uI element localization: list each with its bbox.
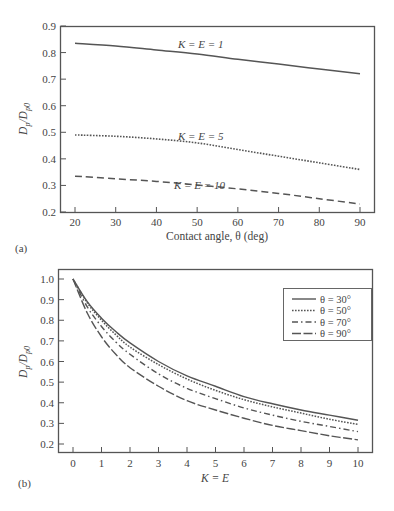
x-tick-label: 9	[327, 457, 333, 469]
y-tick-label: 0.3	[42, 179, 56, 191]
legend-label: θ = 50°	[320, 305, 351, 316]
y-tick-label: 0.4	[42, 153, 56, 165]
x-tick-label: 20	[70, 216, 82, 228]
x-tick-label: 2	[127, 457, 133, 469]
series-annotation: K = E = 10	[173, 179, 225, 191]
y-tick-label: 0.2	[42, 206, 56, 218]
y-tick-label: 0.8	[42, 47, 56, 59]
y-tick-label: 0.2	[40, 438, 54, 450]
x-tick-label: 90	[355, 216, 367, 228]
x-tick-label: 10	[353, 457, 365, 469]
x-tick-label: 4	[184, 457, 190, 469]
chart-a-y-axis-label: Dp/Dp0	[17, 103, 32, 136]
y-tick-label: 0.3	[40, 417, 54, 429]
chart-a: 0.20.30.40.50.60.70.80.9 203040506070809…	[15, 20, 375, 255]
chart-b-panel-label: (b)	[18, 477, 31, 490]
chart-b: 0.20.30.40.50.60.70.80.91.0 012345678910…	[17, 270, 373, 491]
chart-b-y-axis: 0.20.30.40.50.60.70.80.91.0	[40, 273, 64, 450]
x-tick-label: 1	[99, 457, 105, 469]
y-tick-label: 0.6	[40, 356, 54, 368]
y-tick-label: 0.8	[40, 314, 54, 326]
x-tick-label: 6	[241, 457, 247, 469]
chart-a-panel-label: (a)	[15, 242, 28, 255]
y-tick-label: 0.9	[42, 20, 56, 32]
x-tick-label: 50	[192, 216, 204, 228]
y-tick-label: 0.6	[42, 100, 56, 112]
y-tick-label: 0.4	[40, 397, 54, 409]
series-annotation: K = E = 5	[177, 130, 224, 142]
chart-a-y-axis: 0.20.30.40.50.60.70.80.9	[42, 20, 66, 218]
x-tick-label: 60	[232, 216, 244, 228]
y-tick-label: 0.7	[42, 73, 56, 85]
y-tick-label: 0.5	[42, 126, 56, 138]
figure: 0.20.30.40.50.60.70.80.9 203040506070809…	[0, 0, 394, 511]
series-annotation: K = E = 1	[177, 38, 223, 50]
x-tick-label: 80	[314, 216, 326, 228]
legend-label: θ = 70°	[320, 317, 351, 328]
chart-a-annotations: K = E = 1K = E = 5K = E = 10	[173, 38, 225, 191]
y-tick-label: 0.7	[40, 335, 54, 347]
x-tick-label: 30	[110, 216, 122, 228]
y-tick-label: 0.5	[40, 376, 54, 388]
x-tick-label: 70	[273, 216, 285, 228]
chart-b-legend: θ = 30°θ = 50°θ = 70°θ = 90°	[284, 289, 372, 341]
legend-label: θ = 30°	[320, 294, 351, 305]
chart-a-x-axis: 2030405060708090	[70, 207, 367, 228]
y-tick-label: 0.9	[40, 294, 54, 306]
legend-label: θ = 90°	[320, 328, 351, 339]
chart-a-x-axis-label: Contact angle, θ (deg)	[166, 230, 268, 243]
chart-b-x-axis-label: K = E	[200, 472, 229, 484]
x-tick-label: 40	[151, 216, 163, 228]
x-tick-label: 3	[156, 457, 162, 469]
y-tick-label: 1.0	[40, 273, 54, 285]
x-tick-label: 8	[298, 457, 304, 469]
x-tick-label: 5	[213, 457, 219, 469]
x-tick-label: 0	[70, 457, 76, 469]
chart-b-x-axis: 012345678910	[70, 447, 364, 469]
chart-b-y-axis-label: Dp/Dp0	[17, 346, 32, 379]
x-tick-label: 7	[270, 457, 276, 469]
